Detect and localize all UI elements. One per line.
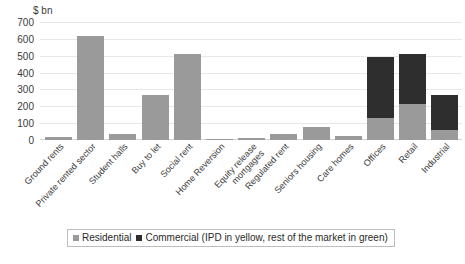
chart-legend: ResidentialCommercial (IPD in yellow, re…: [67, 229, 395, 247]
y-axis-title: $ bn: [33, 5, 52, 16]
bar-segment-residential: [431, 130, 458, 140]
y-axis-tick-label: 300: [0, 84, 34, 95]
bar-student-halls[interactable]: [109, 134, 136, 140]
x-axis-label-line: Offices: [361, 141, 387, 168]
bar-segment-commercial: [431, 95, 458, 130]
bar-segment-residential: [367, 118, 394, 140]
bar-home-reversion[interactable]: [206, 139, 233, 141]
plot-area: [40, 22, 462, 140]
bar-buy-to-let[interactable]: [142, 95, 169, 141]
legend-entry[interactable]: Residential: [73, 232, 131, 243]
y-axis-tick-label: 700: [0, 17, 34, 28]
bar-social-rent[interactable]: [174, 54, 201, 140]
gridline: [40, 22, 462, 23]
bar-segment-residential: [109, 134, 136, 140]
y-axis-tick-label: 500: [0, 50, 34, 61]
legend-label: Commercial (IPD in yellow, rest of the m…: [145, 232, 387, 243]
bar-segment-residential: [270, 134, 297, 140]
legend-swatch-icon: [136, 235, 142, 241]
bar-segment-residential: [399, 104, 426, 140]
bar-segment-commercial: [367, 57, 394, 118]
chart-container: $ bn 0100200300400500600700 Ground rents…: [0, 0, 465, 264]
bar-regulated-rent[interactable]: [270, 134, 297, 140]
bar-segment-residential: [206, 139, 233, 141]
y-axis-tick-label: 600: [0, 33, 34, 44]
bar-segment-residential: [303, 127, 330, 140]
y-axis-tick-label: 400: [0, 67, 34, 78]
x-axis-label-line: Private rented sector: [34, 141, 98, 209]
legend-entry[interactable]: Commercial (IPD in yellow, rest of the m…: [136, 232, 387, 243]
bar-ground-rents[interactable]: [45, 137, 72, 140]
y-axis-tick-label: 0: [0, 135, 34, 146]
x-axis-label: Industrial: [420, 141, 452, 175]
x-axis-label: Private rented sector: [34, 141, 98, 209]
y-axis-tick-label: 200: [0, 101, 34, 112]
bar-segment-residential: [238, 138, 265, 140]
bar-care-homes[interactable]: [335, 136, 362, 140]
bar-segment-residential: [174, 54, 201, 140]
y-axis-tick-label: 100: [0, 118, 34, 129]
bar-segment-residential: [142, 95, 169, 141]
x-axis-label: Offices: [361, 141, 387, 168]
bar-retail[interactable]: [399, 54, 426, 140]
bar-seniors-housing[interactable]: [303, 127, 330, 140]
bar-industrial[interactable]: [431, 95, 458, 140]
x-axis-label-line: Retail: [397, 141, 420, 165]
legend-swatch-icon: [73, 235, 79, 241]
x-axis-tick-labels: Ground rentsPrivate rented sectorStudent…: [40, 142, 465, 220]
x-axis-label-line: Buy to let: [129, 141, 162, 175]
legend-label: Residential: [82, 232, 131, 243]
x-axis-label-line: Industrial: [420, 141, 452, 175]
x-axis-label: Retail: [397, 141, 420, 165]
bar-equity-release-mortgages[interactable]: [238, 138, 265, 140]
x-axis-label: Buy to let: [129, 141, 162, 175]
bar-offices[interactable]: [367, 57, 394, 140]
bar-segment-residential: [77, 36, 104, 141]
bar-segment-residential: [45, 137, 72, 140]
bar-private-rented-sector[interactable]: [77, 36, 104, 141]
bar-segment-residential: [335, 136, 362, 140]
bar-segment-commercial: [399, 54, 426, 104]
